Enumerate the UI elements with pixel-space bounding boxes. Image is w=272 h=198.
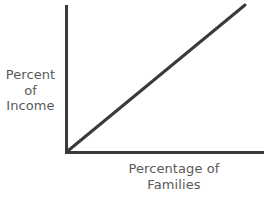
equality-line [67, 5, 246, 152]
x-axis-label-line-2: Families [110, 177, 238, 193]
x-axis-label: Percentage of Families [110, 161, 238, 192]
y-axis-label-line-2: of [0, 83, 61, 99]
y-axis-label-line-1: Percent [0, 67, 61, 83]
x-axis-label-line-1: Percentage of [110, 161, 238, 177]
chart-figure: Percent of Income Percentage of Families [0, 0, 272, 198]
y-axis-label: Percent of Income [0, 67, 61, 114]
y-axis-label-line-3: Income [0, 98, 61, 114]
